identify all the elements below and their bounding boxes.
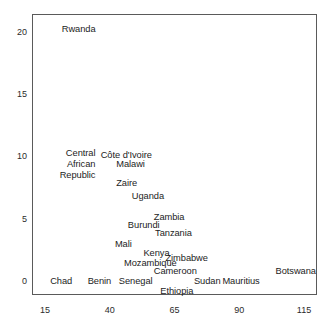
scatter-plot-figure: 05101520 15406590115 RwandaCôte d'Ivoire… — [0, 0, 331, 328]
data-point-label-cameroon: Cameroon — [154, 266, 197, 277]
data-point-label-senegal: Senegal — [119, 275, 153, 286]
data-point-label-botswana: Botswana — [276, 266, 316, 277]
data-point-label-benin: Benin — [88, 275, 112, 286]
data-point-label-chad: Chad — [50, 275, 72, 286]
data-point-label-rwanda: Rwanda — [62, 24, 96, 35]
x-tick-label-40: 40 — [105, 306, 115, 315]
data-point-label-uganda: Uganda — [132, 190, 164, 201]
data-point-label-zaire: Zaire — [116, 178, 137, 189]
data-point-label-ethiopia: Ethiopia — [160, 285, 193, 296]
x-tick-label-115: 115 — [297, 306, 311, 315]
data-point-label-sudan: Sudan — [194, 275, 221, 286]
data-point-label-malawi: Malawi — [116, 159, 145, 170]
data-point-label-c-te-d-ivoire: Côte d'Ivoire — [101, 149, 152, 160]
data-point-label-central-african-republic: Central African Republic — [60, 149, 96, 181]
data-point-label-tanzania: Tanzania — [155, 228, 192, 239]
x-tick-label-65: 65 — [169, 306, 179, 315]
data-point-label-mali: Mali — [115, 239, 132, 250]
x-tick-label-90: 90 — [234, 306, 244, 315]
data-point-label-mauritius: Mauritius — [222, 275, 259, 286]
x-tick-label-15: 15 — [40, 306, 50, 315]
